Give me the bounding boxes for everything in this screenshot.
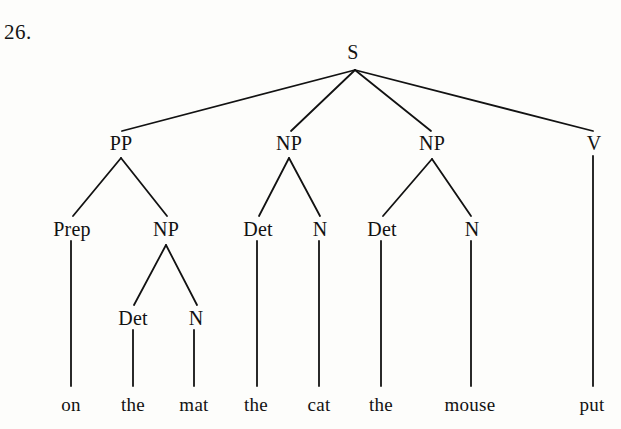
branch-npsubj-det [259, 158, 289, 216]
leaf-word: put [579, 395, 604, 414]
leaf-word: the [369, 395, 393, 414]
node-v: V [587, 133, 602, 153]
branch-pp-prep [73, 158, 121, 216]
node-np-object: NP [419, 133, 445, 153]
branch-nppp-det [134, 245, 166, 305]
leaf-word: cat [307, 395, 330, 414]
branch-npobj-det [383, 159, 432, 216]
branch-s-v [355, 70, 593, 131]
node-np-in-pp: NP [153, 219, 179, 239]
branch-npobj-n [432, 159, 471, 216]
node-det-subject: Det [243, 219, 272, 239]
node-det-in-pp: Det [118, 308, 147, 328]
branch-nppp-n [166, 245, 197, 305]
leaf-word: mat [179, 395, 208, 414]
node-prep: Prep [53, 219, 90, 239]
leaf-word: on [61, 395, 81, 414]
node-s: S [347, 42, 358, 62]
leaf-word: mouse [444, 395, 495, 414]
branch-s-pp [122, 70, 355, 131]
node-pp: PP [110, 133, 133, 153]
leaf-word: the [244, 395, 268, 414]
branch-pp-np [121, 158, 167, 216]
branch-npsubj-n [289, 158, 320, 216]
node-n-object: N [465, 219, 480, 239]
figure-canvas: 26. S PP NP NP V Prep [0, 0, 621, 429]
node-det-object: Det [367, 219, 396, 239]
node-n-in-pp: N [189, 308, 204, 328]
node-np-subject: NP [276, 133, 302, 153]
tree-branches [0, 0, 621, 429]
node-n-subject: N [313, 219, 328, 239]
leaf-word: the [121, 395, 145, 414]
